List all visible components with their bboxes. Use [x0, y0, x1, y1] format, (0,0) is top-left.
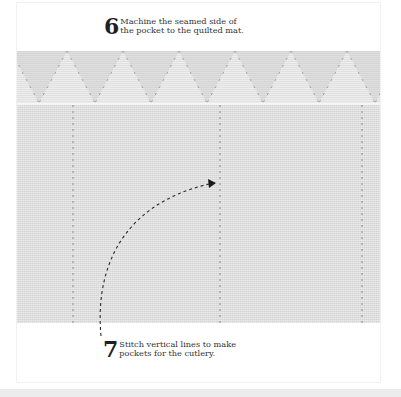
step-7-caption: 7 Stitch vertical lines to make pockets … [103, 340, 236, 358]
step-text: Stitch vertical lines to make pockets fo… [119, 340, 236, 358]
step-number: 7 [103, 340, 118, 358]
step-text-line: pockets for the cutlery. [119, 348, 215, 358]
quilted-mat [17, 51, 380, 103]
pocket-fabric [17, 103, 380, 323]
step-text: Machine the seamed side of the pocket to… [120, 17, 244, 35]
step-6-caption: 6 Machine the seamed side of the pocket … [104, 17, 244, 35]
step-number: 6 [104, 17, 119, 35]
step-text-line: the pocket to the quilted mat. [120, 25, 244, 35]
fabric-photo [17, 51, 380, 323]
quilting-pattern [17, 51, 380, 103]
page-bottom-band [0, 389, 401, 397]
